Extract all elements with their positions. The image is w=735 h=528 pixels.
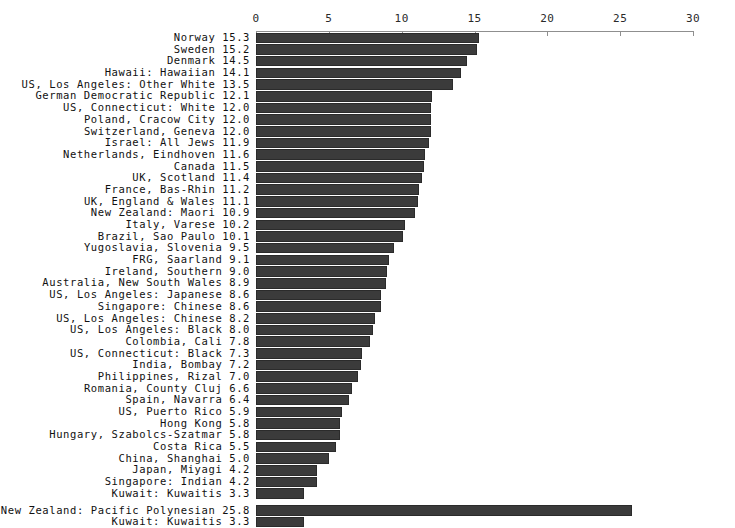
bar-row: US, Connecticut: Black 7.3: [0, 348, 735, 360]
bar-row: Singapore: Indian 4.2: [0, 476, 735, 488]
bar: [256, 138, 429, 149]
bar-row-label: Singapore: Chinese 8.6: [98, 301, 250, 313]
bar-row: Yugoslavia, Slovenia 9.5: [0, 242, 735, 254]
bar: [256, 505, 632, 516]
x-axis-tick-label: 5: [325, 13, 332, 24]
bar-row-label: Philippines, Rizal 7.0: [98, 371, 250, 383]
bar: [256, 442, 336, 453]
bar-row: Canada 11.5: [0, 161, 735, 173]
bar-row: Philippines, Rizal 7.0: [0, 371, 735, 383]
bar-row-label: France, Bas-Rhin 11.2: [105, 184, 250, 196]
bar: [256, 383, 352, 394]
bar-row-label: Poland, Cracow City 12.0: [84, 114, 250, 126]
bar: [256, 418, 340, 429]
bar-row: China, Shanghai 5.0: [0, 453, 735, 465]
bar-row: US, Puerto Rico 5.9: [0, 406, 735, 418]
bar-row-label: Hawaii: Hawaiian 14.1: [105, 67, 250, 79]
x-axis-tick-label: 0: [252, 13, 259, 24]
bar-row: Sweden 15.2: [0, 44, 735, 56]
bar: [256, 371, 358, 382]
bar: [256, 430, 340, 441]
bar: [256, 79, 453, 90]
bar-row-label: Costa Rica 5.5: [153, 441, 250, 453]
x-axis-tick-label: 10: [395, 13, 409, 24]
bar-row-label: Norway 15.3: [174, 32, 250, 44]
bar-row: Italy, Varese 10.2: [0, 219, 735, 231]
bar: [256, 301, 381, 312]
bar: [256, 290, 381, 301]
bar: [256, 325, 373, 336]
bar: [256, 220, 405, 231]
bar-row: New Zealand: Pacific Polynesian 25.8: [0, 505, 735, 517]
bar: [256, 266, 387, 277]
bar: [256, 488, 304, 499]
bar: [256, 126, 431, 137]
bar: [256, 44, 477, 55]
x-axis: 051015202530: [0, 0, 735, 34]
x-axis-tick-label: 30: [686, 13, 700, 24]
bar-row: Norway 15.3: [0, 32, 735, 44]
bar-row: US, Los Angeles: Black 8.0: [0, 324, 735, 336]
bar-row-label: Kuwait: Kuwaitis 3.3: [112, 516, 250, 528]
bar-row: Costa Rica 5.5: [0, 441, 735, 453]
bar-row-label: Kuwait: Kuwaitis 3.3: [112, 488, 250, 500]
bar: [256, 348, 362, 359]
bar: [256, 196, 418, 207]
bar-row: Kuwait: Kuwaitis 3.3: [0, 516, 735, 528]
bar: [256, 255, 389, 266]
bar-row-label: FRG, Saarland 9.1: [132, 254, 250, 266]
bar-row: Romania, County Cluj 6.6: [0, 383, 735, 395]
bar-row: New Zealand: Maori 10.9: [0, 207, 735, 219]
bar: [256, 477, 317, 488]
x-axis-tick-label: 20: [540, 13, 554, 24]
bar-row: Kuwait: Kuwaitis 3.3: [0, 488, 735, 500]
bar: [256, 395, 349, 406]
bar-row: Hungary, Szabolcs-Szatmar 5.8: [0, 429, 735, 441]
bar: [256, 465, 317, 476]
bar-row: Singapore: Chinese 8.6: [0, 301, 735, 313]
bar-row: Netherlands, Eindhoven 11.6: [0, 149, 735, 161]
bar-row-label: US, Puerto Rico 5.9: [118, 406, 250, 418]
bar-row-label: Italy, Varese 10.2: [125, 219, 250, 231]
bar: [256, 103, 431, 114]
bar: [256, 114, 431, 125]
bar-row-label: Netherlands, Eindhoven 11.6: [63, 149, 250, 161]
bar: [256, 231, 403, 242]
bar: [256, 91, 432, 102]
x-axis-tick-label: 25: [613, 13, 627, 24]
bar: [256, 517, 304, 528]
bar: [256, 336, 370, 347]
plot-area: Norway 15.3Sweden 15.2Denmark 14.5Hawaii…: [0, 32, 735, 452]
bar: [256, 407, 342, 418]
bar: [256, 68, 461, 79]
bar: [256, 313, 375, 324]
bar-row: Spain, Navarra 6.4: [0, 394, 735, 406]
bar: [256, 278, 386, 289]
bar: [256, 243, 394, 254]
bar-row-label: Colombia, Cali 7.8: [125, 336, 250, 348]
bar: [256, 208, 415, 219]
x-axis-tick-label: 15: [467, 13, 481, 24]
bar-row: Poland, Cracow City 12.0: [0, 114, 735, 126]
bar-row: Colombia, Cali 7.8: [0, 336, 735, 348]
bar: [256, 161, 424, 172]
bar-row: France, Bas-Rhin 11.2: [0, 184, 735, 196]
bar: [256, 149, 425, 160]
bar-row: Hawaii: Hawaiian 14.1: [0, 67, 735, 79]
bar: [256, 360, 361, 371]
bar: [256, 184, 419, 195]
bar: [256, 173, 422, 184]
bar: [256, 56, 467, 67]
bar: [256, 33, 479, 44]
bar: [256, 453, 329, 464]
bar-row: FRG, Saarland 9.1: [0, 254, 735, 266]
